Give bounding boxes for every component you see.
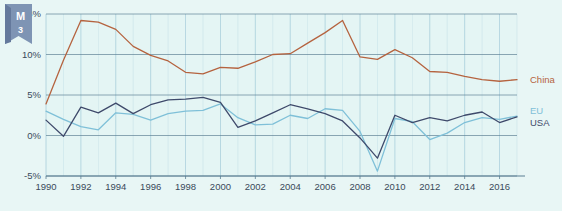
growth-rate-line-chart: -5%0%5%10%15% 19901992199419961998200020…	[0, 0, 562, 211]
y-tick-label: 0%	[27, 130, 41, 141]
badge-number-text: 3	[18, 25, 23, 35]
x-tick-label: 2008	[349, 181, 370, 192]
y-tick-label: 5%	[27, 89, 41, 100]
x-tick-label: 1994	[105, 181, 126, 192]
x-tick-label: 1998	[175, 181, 196, 192]
legend-label-usa: USA	[530, 117, 550, 128]
x-tick-label: 2012	[419, 181, 440, 192]
x-tick-label: 1990	[35, 181, 56, 192]
x-tick-label: 1996	[140, 181, 161, 192]
x-tick-label: 2010	[384, 181, 405, 192]
x-tick-label: 1992	[70, 181, 91, 192]
x-tick-label: 2014	[454, 181, 475, 192]
badge-ribbon-fold	[5, 4, 11, 44]
x-tick-label: 2002	[245, 181, 266, 192]
x-tick-label: 2004	[280, 181, 301, 192]
chart-canvas: -5%0%5%10%15% 19901992199419961998200020…	[0, 0, 562, 211]
x-tick-label: 2006	[315, 181, 336, 192]
y-tick-label: 10%	[22, 49, 42, 60]
y-tick-label: -5%	[24, 170, 41, 181]
x-tick-label: 2016	[489, 181, 510, 192]
badge-letter-text: M	[16, 10, 25, 22]
legend-label-china: China	[530, 74, 556, 85]
legend-label-eu: EU	[530, 105, 543, 116]
x-tick-label: 2000	[210, 181, 231, 192]
